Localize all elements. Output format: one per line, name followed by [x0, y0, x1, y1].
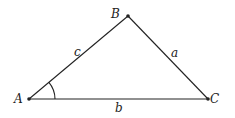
vertex-a-point — [27, 97, 31, 101]
side-c-label: c — [74, 45, 81, 59]
vertex-b-label: B — [110, 7, 120, 21]
triangle-sides — [29, 16, 208, 99]
vertex-c-label: C — [210, 92, 219, 106]
angle-a-arc — [49, 82, 55, 99]
triangle-diagram: A B C c a b — [0, 0, 235, 118]
vertex-a-label: A — [13, 92, 23, 106]
side-a — [128, 16, 208, 99]
vertex-points — [27, 14, 210, 101]
side-a-label: a — [171, 46, 178, 60]
vertex-b-point — [126, 14, 130, 18]
side-b-label: b — [115, 101, 123, 115]
